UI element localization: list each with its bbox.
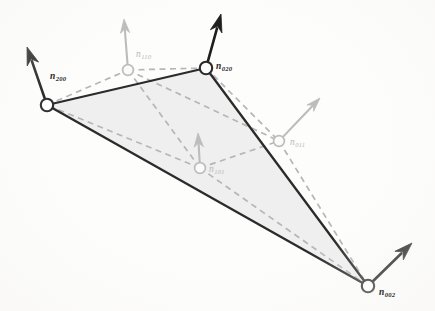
bezier-triangle-figure: n200n110n020n101n011n002 [0, 0, 435, 311]
triangle-fill [47, 68, 368, 286]
normal-arrow-shaft-n020 [208, 28, 217, 61]
normal-arrow-shaft-n200 [32, 61, 45, 98]
normal-arrow-shaft-n011 [283, 106, 312, 136]
control-point-n020 [200, 62, 212, 74]
control-point-n002 [362, 280, 374, 292]
control-point-n110 [123, 65, 134, 76]
control-point-n101 [195, 163, 206, 174]
normal-arrow-shaft-n110 [125, 30, 128, 64]
control-point-n200 [41, 99, 53, 111]
normal-arrow-shaft-n002 [373, 253, 401, 280]
control-point-n011 [274, 136, 285, 147]
triangle-surface [47, 68, 368, 286]
normal-arrow-shaft-n101 [199, 144, 200, 162]
control-net-diagram [0, 0, 435, 311]
